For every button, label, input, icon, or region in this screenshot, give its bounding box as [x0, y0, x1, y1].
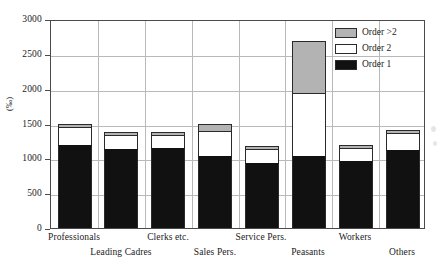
bar-segment-order-gt2 — [245, 146, 279, 149]
x-axis-label-service-pers: Service Pers. — [236, 232, 287, 243]
bar-segment-order-gt2 — [58, 124, 92, 127]
bar-segment-order-1 — [292, 156, 326, 228]
y-tick-label-2000: 2000 — [22, 85, 42, 95]
bar-segment-order-1 — [58, 145, 92, 228]
gridline-v-2 — [145, 21, 146, 228]
bar-segment-order-gt2 — [292, 41, 326, 93]
bar-segment-order-2 — [292, 93, 326, 156]
x-axis-label-others: Others — [389, 247, 415, 258]
bar-segment-order-2 — [339, 148, 373, 161]
x-axis-label-sales-pers: Sales Pers. — [194, 247, 236, 258]
bar-segment-order-1 — [104, 149, 138, 228]
bar-segment-order-gt2 — [151, 132, 185, 135]
legend-swatch-icon — [335, 60, 357, 70]
y-tick-label-2500: 2500 — [22, 50, 42, 60]
y-axis: (‰) 3000 2500 2000 1500 1000 500 0 — [0, 0, 50, 230]
x-axis-label-peasants: Peasants — [291, 247, 325, 258]
gridline-v-3 — [192, 21, 193, 228]
y-tick-label-1000: 1000 — [22, 155, 42, 165]
bar-segment-order-2 — [104, 135, 138, 149]
bar-segment-order-gt2 — [198, 124, 232, 131]
bar-segment-order-2 — [386, 133, 420, 150]
legend-item-order-1[interactable]: Order 1 — [335, 58, 427, 71]
bar-segment-order-1 — [198, 156, 232, 228]
legend-swatch-icon — [335, 28, 357, 38]
gridline-v-5 — [285, 21, 286, 228]
y-tick-label-500: 500 — [27, 189, 42, 199]
bar-segment-order-1 — [339, 161, 373, 228]
gridline-h-1500 — [51, 126, 424, 127]
y-tick-label-0: 0 — [37, 224, 42, 234]
gridline-v-4 — [239, 21, 240, 228]
bar-segment-order-2 — [198, 131, 232, 156]
legend-item-label: Order 1 — [362, 58, 391, 71]
bar-segment-order-gt2 — [386, 130, 420, 133]
bar-segment-order-2 — [245, 149, 279, 163]
legend-item-order-2[interactable]: Order 2 — [335, 42, 427, 55]
scan-artifact — [433, 141, 437, 146]
x-axis-label-leading-cadres: Leading Cadres — [90, 247, 151, 258]
legend-item-label: Order >2 — [362, 26, 397, 39]
scan-artifact — [431, 126, 436, 132]
y-tick-label-1500: 1500 — [22, 120, 42, 130]
legend-swatch-icon — [335, 44, 357, 54]
x-axis-label-clerks-etc: Clerks etc. — [147, 232, 189, 243]
bar-segment-order-gt2 — [104, 132, 138, 135]
bar-segment-order-1 — [151, 148, 185, 228]
bar-segment-order-1 — [245, 163, 279, 228]
bar-segment-order-2 — [58, 127, 92, 145]
legend-item-label: Order 2 — [362, 42, 391, 55]
gridline-h-2000 — [51, 91, 424, 92]
bar-segment-order-gt2 — [339, 145, 373, 148]
legend-item-order-gt2[interactable]: Order >2 — [335, 26, 427, 39]
gridline-v-1 — [98, 21, 99, 228]
x-axis-label-professionals: Professionals — [48, 232, 100, 243]
y-axis-title: (‰) — [4, 97, 14, 111]
x-axis-label-workers: Workers — [339, 232, 372, 243]
y-tick-label-3000: 3000 — [22, 15, 42, 25]
bar-segment-order-1 — [386, 150, 420, 228]
legend: Order >2 Order 2 Order 1 — [335, 26, 427, 74]
stacked-bar-chart: (‰) 3000 2500 2000 1500 1000 500 0 — [0, 0, 440, 272]
gridline-v-6 — [332, 21, 333, 228]
bar-segment-order-2 — [151, 135, 185, 148]
